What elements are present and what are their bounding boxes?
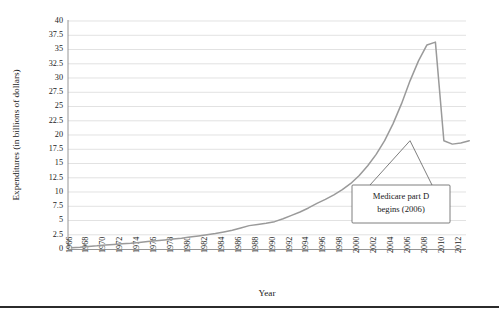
xtick-label: 2004: [386, 237, 395, 253]
ytick-label: 35: [55, 44, 63, 53]
callout-text-line-1: Medicare part D: [373, 191, 429, 201]
y-axis-tick-labels: 40 37.5 35 32.5 30 27.5 25 22.5 20 17.5 …: [49, 16, 63, 253]
ytick-label: 12.5: [49, 173, 63, 182]
ytick-label: 22.5: [49, 116, 63, 125]
ytick-label: 17.5: [49, 144, 63, 153]
bottom-border-rule: [0, 306, 499, 308]
xtick-label: 1984: [217, 237, 226, 253]
xtick-label: 1976: [149, 237, 158, 253]
xtick-label: 1982: [200, 237, 209, 253]
line-chart: 40 37.5 35 32.5 30 27.5 25 22.5 20 17.5 …: [0, 0, 499, 312]
xtick-label: 1966: [65, 237, 74, 253]
callout-text-line-2: begins (2006): [377, 204, 425, 214]
xtick-label: 2000: [352, 237, 361, 253]
x-axis-title: Year: [259, 288, 276, 298]
xtick-label: 1974: [132, 237, 141, 253]
xtick-label: 2012: [454, 237, 463, 253]
ytick-label: 25: [55, 101, 63, 110]
ytick-label: 27.5: [49, 87, 63, 96]
ytick-label: 20: [55, 130, 63, 139]
y-axis-title: Expenditures (in billions of dollars): [11, 69, 21, 200]
ytick-label: 30: [55, 73, 63, 82]
xtick-label: 2002: [369, 237, 378, 253]
ytick-label: 32.5: [49, 59, 63, 68]
xtick-label: 1996: [318, 237, 327, 253]
xtick-label: 1988: [251, 237, 260, 253]
xtick-label: 2010: [437, 237, 446, 253]
ytick-label: 15: [55, 158, 63, 167]
ytick-label: 5: [59, 215, 63, 224]
xtick-label: 1998: [335, 237, 344, 253]
xtick-label: 1980: [183, 237, 192, 253]
ytick-label: 2.5: [53, 230, 63, 239]
xtick-label: 1986: [234, 237, 243, 253]
xtick-label: 2006: [403, 237, 412, 253]
xtick-label: 1990: [268, 237, 277, 253]
ytick-label: 10: [55, 187, 63, 196]
xtick-label: 1992: [285, 237, 294, 253]
ytick-label: 37.5: [49, 30, 63, 39]
ytick-label: 40: [55, 16, 63, 25]
xtick-label: 1994: [301, 237, 310, 253]
ytick-label: 7.5: [53, 201, 63, 210]
xtick-label: 2008: [420, 237, 429, 253]
xtick-label: 1968: [81, 237, 90, 253]
ytick-label: 0: [59, 244, 63, 253]
chart-figure: 40 37.5 35 32.5 30 27.5 25 22.5 20 17.5 …: [0, 0, 499, 312]
